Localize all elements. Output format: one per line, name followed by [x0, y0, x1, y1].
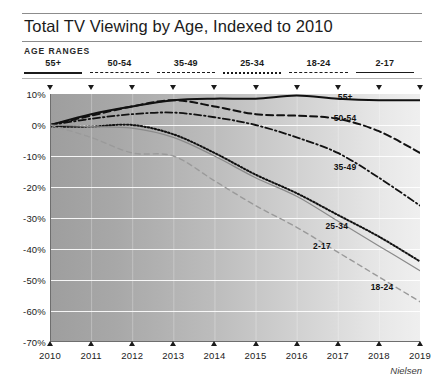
legend-item-label: 18-24 [306, 58, 330, 68]
legend-item-50-54[interactable]: 50-54 [90, 58, 148, 76]
legend-item-label: 25-34 [240, 58, 264, 68]
x-axis-tick-marker [129, 341, 135, 346]
legend-item-swatch [157, 72, 215, 73]
legend-item-35-49[interactable]: 35-49 [157, 58, 215, 76]
legend-title: AGE RANGES [24, 46, 90, 56]
top-year-marker [335, 85, 341, 90]
x-axis-tick-label: 2010 [39, 350, 61, 361]
legend-item-label: 55+ [45, 58, 61, 68]
series-inline-label: 18-24 [371, 282, 394, 292]
legend-item-swatch [289, 72, 347, 73]
legend-item-label: 2-17 [375, 58, 394, 68]
legend-item-swatch [223, 72, 281, 74]
y-axis-tick-label: 0% [2, 120, 46, 131]
legend-item-18-24[interactable]: 18-24 [289, 58, 347, 76]
legend-item-label: 35-49 [174, 58, 198, 68]
x-axis-line [50, 341, 420, 342]
x-axis-tick-marker [417, 341, 423, 346]
plot-area [50, 94, 420, 342]
x-axis-tick-marker [47, 341, 53, 346]
source-credit: Nielsen [390, 365, 422, 376]
x-axis-tick-marker [170, 341, 176, 346]
x-axis-tick-marker [211, 341, 217, 346]
legend-item-2-17[interactable]: 2-17 [356, 58, 414, 76]
x-axis-tick-label: 2014 [203, 350, 225, 361]
y-axis-tick-label: -10% [2, 151, 46, 162]
page-title: Total TV Viewing by Age, Indexed to 2010 [24, 17, 333, 36]
legend-item-55plus[interactable]: 55+ [24, 58, 82, 76]
top-year-marker [129, 85, 135, 90]
y-axis: 10%0%-10%-20%-30%-40%-50%-60%-70% [0, 94, 46, 342]
series-inline-label: 35-49 [334, 162, 357, 172]
x-axis-tick-label: 2016 [286, 350, 308, 361]
x-axis-tick-marker [294, 341, 300, 346]
top-year-marker [47, 85, 53, 90]
top-year-marker [170, 85, 176, 90]
y-axis-tick-label: -20% [2, 182, 46, 193]
legend: 55+50-5435-4925-3418-242-17 [24, 58, 422, 76]
top-year-marker [253, 85, 259, 90]
x-axis-tick-label: 2019 [409, 350, 431, 361]
x-axis-tick-marker [88, 341, 94, 346]
x-axis-tick-label: 2017 [327, 350, 349, 361]
y-axis-tick-label: -40% [2, 244, 46, 255]
y-axis-tick-label: -50% [2, 275, 46, 286]
y-axis-tick-label: 10% [2, 89, 46, 100]
series-inline-label: 2-17 [313, 241, 331, 251]
x-axis-tick-label: 2015 [245, 350, 267, 361]
top-year-marker [417, 85, 423, 90]
top-year-marker [211, 85, 217, 90]
legend-item-label: 50-54 [107, 58, 131, 68]
series-lines [50, 94, 420, 342]
x-axis-tick-label: 2013 [162, 350, 184, 361]
x-axis-tick-label: 2018 [368, 350, 390, 361]
legend-item-swatch [90, 72, 148, 73]
y-axis-line [50, 94, 51, 342]
legend-item-25-34[interactable]: 25-34 [223, 58, 281, 76]
series-inline-label: 55+ [338, 92, 353, 102]
y-axis-tick-label: -30% [2, 213, 46, 224]
x-axis-tick-marker [335, 341, 341, 346]
y-axis-tick-label: -60% [2, 306, 46, 317]
y-axis-tick-label: -70% [2, 337, 46, 348]
x-axis-tick-label: 2011 [80, 350, 101, 361]
top-year-marker [376, 85, 382, 90]
x-axis-tick-marker [253, 341, 259, 346]
x-axis-tick-label: 2012 [121, 350, 143, 361]
top-year-marker [294, 85, 300, 90]
top-year-marker [88, 85, 94, 90]
legend-item-swatch [24, 72, 82, 74]
top-rule [22, 13, 422, 14]
legend-item-swatch [356, 72, 414, 73]
series-inline-label: 25-34 [325, 221, 348, 231]
title-rule [22, 41, 422, 42]
series-inline-label: 50-54 [334, 113, 357, 123]
x-axis-tick-marker [376, 341, 382, 346]
legend-rule [22, 78, 422, 79]
chart-page: Total TV Viewing by Age, Indexed to 2010… [0, 0, 444, 391]
